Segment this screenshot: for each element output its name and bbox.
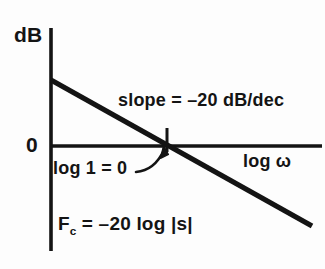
crossing-annotation-label: log 1 = 0 (53, 159, 127, 177)
slope-annotation-label: slope = –20 dB/dec (118, 91, 284, 109)
x-axis-label: log ω (243, 152, 291, 170)
transfer-function-formula: Fc = –20 log |s| (58, 214, 193, 237)
formula-rest: = –20 log |s| (76, 213, 192, 234)
callout-arrow (136, 150, 164, 172)
bode-plot-figure: dB 0 slope = –20 dB/dec log ω log 1 = 0 … (0, 0, 325, 269)
formula-base: F (58, 213, 70, 234)
y-axis-label: dB (14, 24, 42, 45)
y-axis-zero-tick-label: 0 (26, 134, 38, 155)
